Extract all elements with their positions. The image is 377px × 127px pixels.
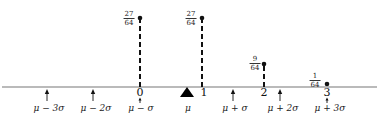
spike-0 bbox=[138, 16, 143, 87]
arrow-mu-plus-2sigma bbox=[278, 89, 282, 101]
tick-1: 1 bbox=[201, 86, 208, 99]
prob-label-0: 27 64 bbox=[124, 10, 135, 27]
spike-1 bbox=[200, 16, 205, 87]
arrow-mu-plus-sigma bbox=[231, 89, 235, 101]
prob-den-2: 64 bbox=[250, 64, 261, 72]
prob-label-2: 9 64 bbox=[250, 55, 261, 72]
prob-den-3: 64 bbox=[310, 81, 321, 89]
arrow-mu-minus-3sigma bbox=[45, 89, 49, 101]
prob-num-0: 27 bbox=[124, 10, 135, 19]
tick-3: 3 bbox=[324, 86, 331, 99]
label-mu-plus-sigma: μ + σ bbox=[222, 103, 247, 113]
arrow-mu-minus-2sigma bbox=[91, 89, 95, 101]
tick-0: 0 bbox=[137, 86, 144, 99]
label-mu-minus-sigma: μ − σ bbox=[128, 103, 153, 113]
label-mu-plus-3sigma: μ + 3σ bbox=[315, 103, 346, 113]
label-mu-minus-3sigma: μ − 3σ bbox=[34, 103, 65, 113]
prob-label-1: 27 64 bbox=[186, 10, 197, 27]
prob-num-1: 27 bbox=[186, 10, 197, 19]
prob-label-3: 1 64 bbox=[310, 72, 321, 89]
prob-den-1: 64 bbox=[186, 19, 197, 27]
spike-2 bbox=[262, 62, 267, 87]
label-mu-minus-2sigma: μ − 2σ bbox=[81, 103, 112, 113]
label-mu-plus-2sigma: μ + 2σ bbox=[268, 103, 299, 113]
prob-num-3: 1 bbox=[310, 72, 321, 81]
prob-den-0: 64 bbox=[124, 19, 135, 27]
label-mu: μ bbox=[185, 103, 191, 113]
mean-triangle-icon bbox=[180, 87, 194, 97]
tick-2: 2 bbox=[261, 86, 268, 99]
prob-num-2: 9 bbox=[250, 55, 261, 64]
